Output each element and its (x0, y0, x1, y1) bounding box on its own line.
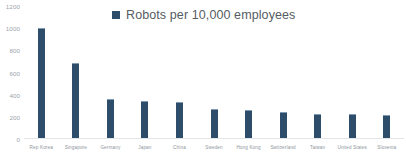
x-axis-tick-label: Singapore (59, 143, 94, 159)
x-axis-tick-label: Slovenia (369, 143, 404, 159)
bar[interactable] (38, 28, 45, 139)
bar-slot (335, 6, 370, 139)
y-axis-tick-label: 0 (16, 136, 20, 143)
bar-slot (197, 6, 232, 139)
bar[interactable] (72, 63, 79, 139)
bar-slot (300, 6, 335, 139)
legend-square-icon (112, 11, 120, 19)
bar-slot (59, 6, 94, 139)
bar-slot (266, 6, 301, 139)
bar[interactable] (107, 99, 114, 139)
x-axis-tick-label: Japan (128, 143, 163, 159)
x-axis-tick-label: Rep Korea (24, 143, 59, 159)
y-axis-tick-label: 200 (9, 113, 20, 120)
bar-slot (128, 6, 163, 139)
x-axis-tick-label: China (162, 143, 197, 159)
bar-slot (93, 6, 128, 139)
legend-label: Robots per 10,000 employees (126, 9, 295, 22)
bar-slot (231, 6, 266, 139)
bar[interactable] (211, 109, 218, 139)
y-axis-tick-label: 800 (9, 47, 20, 54)
x-axis-labels: Rep KoreaSingaporeGermanyJapanChinaSwede… (24, 143, 404, 159)
x-axis-tick-label: Sweden (197, 143, 232, 159)
x-axis-tick-label: Germany (93, 143, 128, 159)
x-axis-baseline (24, 138, 404, 139)
bar-slot (369, 6, 404, 139)
bar[interactable] (314, 114, 321, 139)
bar[interactable] (280, 112, 287, 139)
bar-slot (24, 6, 59, 139)
plot-area: 120010008006004002000 (24, 6, 404, 139)
bar[interactable] (176, 102, 183, 139)
bar[interactable] (383, 115, 390, 139)
y-axis-tick-label: 1000 (6, 25, 20, 32)
x-axis-tick-label: Switzerland (266, 143, 301, 159)
x-axis-tick-label: United States (335, 143, 370, 159)
y-axis-tick-label: 1200 (6, 3, 20, 10)
bar[interactable] (349, 114, 356, 139)
y-axis-tick-label: 400 (9, 91, 20, 98)
chart-legend: Robots per 10,000 employees (112, 9, 295, 22)
bar[interactable] (245, 110, 252, 139)
y-axis-tick-label: 600 (9, 69, 20, 76)
bar[interactable] (141, 101, 148, 139)
bars-container (24, 6, 404, 139)
bar-slot (162, 6, 197, 139)
x-axis-tick-label: Taiwan (300, 143, 335, 159)
bar-chart: Robots per 10,000 employees 120010008006… (0, 0, 406, 163)
x-axis-tick-label: Hong Kong (231, 143, 266, 159)
